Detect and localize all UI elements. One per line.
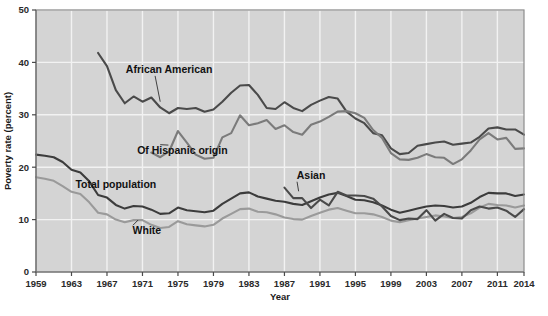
x-axis-tick-label: 2014 <box>513 278 535 289</box>
plot-panel <box>36 10 524 272</box>
x-axis-tick-label: 1983 <box>238 278 259 289</box>
x-axis-tick-label: 2011 <box>487 278 508 289</box>
x-axis-tick-label: 1987 <box>274 278 295 289</box>
series-label-total-population: Total population <box>75 178 156 190</box>
x-axis-tick-label: 1975 <box>167 278 189 289</box>
y-axis-tick-label: 50 <box>18 4 29 15</box>
poverty-rate-line-chart: 01020304050 1959196319671971197519791983… <box>0 0 548 316</box>
x-axis-tick-label: 1963 <box>61 278 82 289</box>
series-label-of-hispanic-origin: Of Hispanic origin <box>137 144 227 156</box>
plot-background <box>36 10 524 272</box>
x-axis-tick-label: 1979 <box>203 278 224 289</box>
y-axis-tick-label: 0 <box>24 266 29 277</box>
x-axis-tick-label: 2003 <box>416 278 437 289</box>
x-axis-tick-label: 1991 <box>309 278 331 289</box>
y-axis-tick-label: 40 <box>18 57 29 68</box>
x-axis-tick-label: 1967 <box>96 278 117 289</box>
y-axis-title: Poverty rate (percent) <box>2 92 13 190</box>
series-label-white: White <box>133 224 162 236</box>
x-axis-tick-label: 1995 <box>345 278 367 289</box>
x-axis-title: Year <box>270 291 290 302</box>
y-axis-tick-label: 30 <box>18 109 29 120</box>
x-axis-tick-label: 1971 <box>132 278 154 289</box>
y-axis-tick-label: 10 <box>18 214 29 225</box>
series-label-asian: Asian <box>297 169 326 181</box>
y-axis-tick-label: 20 <box>18 162 29 173</box>
x-axis-tick-label: 2007 <box>451 278 472 289</box>
y-axis: 01020304050 <box>18 4 36 277</box>
x-axis: 1959196319671971197519791983198719911995… <box>25 272 535 289</box>
x-axis-tick-label: 1959 <box>25 278 46 289</box>
chart-svg: 01020304050 1959196319671971197519791983… <box>0 0 548 316</box>
series-label-african-american: African American <box>126 63 213 75</box>
x-axis-tick-label: 1999 <box>380 278 401 289</box>
